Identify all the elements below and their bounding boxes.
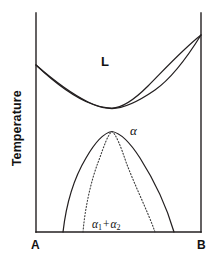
- plus-symbol: +: [102, 218, 111, 230]
- x-axis-endpoint-a-label: A: [31, 239, 40, 251]
- x-axis-endpoint-b-label: B: [197, 239, 206, 251]
- solvus-curve: [63, 132, 174, 233]
- y-axis-title: Temperature: [11, 78, 24, 178]
- phase-diagram-figure: Temperature L α α1+α2 A B: [0, 0, 218, 260]
- solidus-curve: [36, 35, 201, 109]
- alpha1-plus-alpha2-label: α1+α2: [92, 219, 121, 232]
- liquidus-curve: [36, 35, 201, 108]
- alpha2-subscript: 2: [117, 223, 121, 232]
- alpha-phase-label: α: [130, 124, 137, 137]
- liquid-phase-label: L: [101, 55, 109, 68]
